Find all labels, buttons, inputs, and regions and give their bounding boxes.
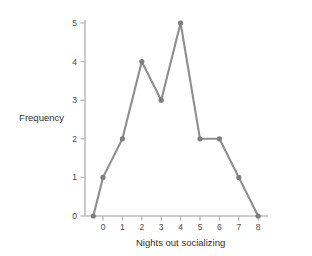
x-tick-label: 1 [120, 223, 125, 232]
data-point-markers [91, 20, 261, 218]
data-point-marker [139, 59, 144, 64]
y-tick-label: 4 [72, 57, 77, 66]
x-tick-label: 6 [217, 223, 222, 232]
y-tick-label: 3 [72, 96, 77, 105]
data-point-marker [256, 213, 261, 218]
tick-marks-group [81, 23, 259, 221]
y-tick-label: 0 [72, 212, 77, 221]
data-point-marker [178, 20, 183, 25]
frequency-line [93, 23, 258, 216]
data-point-marker [91, 213, 96, 218]
x-tick-label: 5 [198, 223, 203, 232]
data-point-marker [120, 136, 125, 141]
x-tick-label: 8 [256, 223, 261, 232]
y-axis-title: Frequency [19, 113, 64, 123]
chart-canvas [0, 0, 312, 256]
data-point-marker [197, 136, 202, 141]
y-tick-label: 5 [72, 19, 77, 28]
x-tick-label: 4 [178, 223, 183, 232]
axes-group [85, 20, 268, 216]
x-tick-label: 0 [101, 223, 106, 232]
x-tick-label: 2 [139, 223, 144, 232]
y-tick-label: 2 [72, 135, 77, 144]
data-point-marker [100, 175, 105, 180]
data-point-marker [236, 175, 241, 180]
frequency-polygon-figure: 012345678 012345 Nights out socializing … [0, 0, 312, 256]
data-point-marker [159, 98, 164, 103]
x-axis-title: Nights out socializing [136, 238, 225, 248]
x-tick-label: 7 [236, 223, 241, 232]
y-tick-label: 1 [72, 173, 77, 182]
data-point-marker [217, 136, 222, 141]
x-tick-label: 3 [159, 223, 164, 232]
